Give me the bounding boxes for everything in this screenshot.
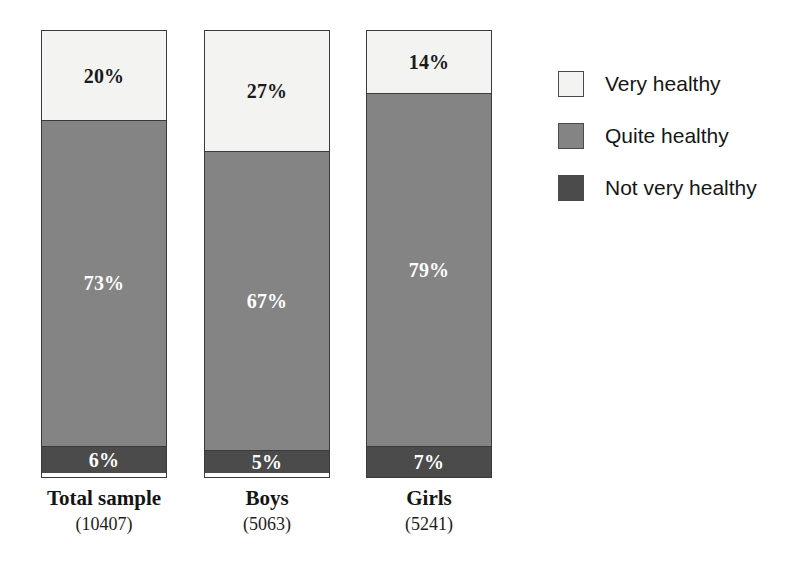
bar-segment-label: 67% — [247, 291, 288, 311]
bar-segment-label: 73% — [84, 273, 125, 293]
legend-item-label: Not very healthy — [605, 176, 757, 200]
bar-segment-very-healthy[interactable]: 14% — [367, 31, 491, 93]
bar-segment-label: 14% — [409, 52, 450, 72]
stacked-bar-chart: 20% 73% 6% Total sample (10407) 27% 67% — [0, 0, 808, 566]
legend-swatch-icon — [558, 71, 584, 97]
legend-swatch-icon — [558, 123, 584, 149]
bar-segment-quite-healthy[interactable]: 73% — [42, 120, 166, 446]
bar-segment-not-very-healthy[interactable]: 6% — [42, 446, 166, 473]
bar-segment-very-healthy[interactable]: 20% — [42, 31, 166, 120]
legend-item-label: Quite healthy — [605, 124, 729, 148]
plot-area: 20% 73% 6% Total sample (10407) 27% 67% — [0, 0, 530, 566]
bar-segment-label: 27% — [247, 81, 288, 101]
bar-segment-label: 20% — [84, 66, 125, 86]
bar-segment-label: 6% — [89, 450, 119, 470]
bar-segment-very-healthy[interactable]: 27% — [205, 31, 329, 151]
category-label: Girls — [344, 486, 514, 511]
chart-legend: Very healthy Quite healthy Not very heal… — [558, 58, 798, 214]
category-label: Boys — [182, 486, 352, 511]
bar-segment-label: 5% — [252, 452, 282, 472]
bar-segment-quite-healthy[interactable]: 79% — [367, 93, 491, 445]
legend-swatch-icon — [558, 175, 584, 201]
bar-segment-label: 7% — [414, 452, 444, 472]
bar-segment-quite-healthy[interactable]: 67% — [205, 151, 329, 450]
bar-segment-not-very-healthy[interactable]: 5% — [205, 450, 329, 472]
bar-stack[interactable]: 20% 73% 6% — [41, 30, 167, 478]
legend-item-label: Very healthy — [605, 72, 721, 96]
bar-segment-label: 79% — [409, 260, 450, 280]
category-label: Total sample — [19, 486, 189, 511]
legend-item-not-very-healthy[interactable]: Not very healthy — [558, 162, 798, 214]
legend-item-quite-healthy[interactable]: Quite healthy — [558, 110, 798, 162]
category-count: (5241) — [344, 514, 514, 535]
category-count: (10407) — [19, 514, 189, 535]
legend-item-very-healthy[interactable]: Very healthy — [558, 58, 798, 110]
category-count: (5063) — [182, 514, 352, 535]
bar-stack[interactable]: 14% 79% 7% — [366, 30, 492, 478]
bar-stack[interactable]: 27% 67% 5% — [204, 30, 330, 478]
bar-segment-not-very-healthy[interactable]: 7% — [367, 446, 491, 477]
